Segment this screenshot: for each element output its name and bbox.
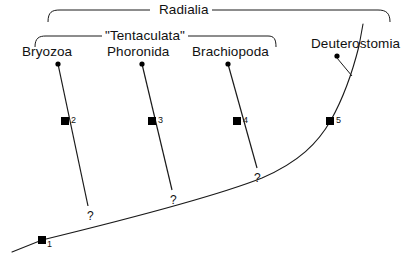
taxon-label-brachiopoda: Brachiopoda [192,45,269,59]
radialia-bracket [48,10,390,22]
clade-label-tentaculata: "Tentaculata" [102,29,188,43]
node-number-4: 4 [243,116,248,125]
node-number-2: 2 [71,116,76,125]
terminal-dot-brachiopoda [225,61,230,66]
question-mark-brachiopoda: ? [254,172,261,184]
taxon-label-deuterostomia: Deuterostomia [311,37,400,51]
cladogram-figure: Radialia "Tentaculata" Bryozoa Phoronida… [0,0,406,264]
branch-deuterostomia [326,47,359,125]
node-number-3: 3 [158,116,163,125]
node-square-1 [38,236,46,244]
taxon-label-phoronida: Phoronida [107,45,169,59]
node-square-4 [233,117,241,125]
node-square-3 [148,117,156,125]
terminal-dot-phoronida [139,61,144,66]
node-number-5: 5 [336,116,341,125]
node-number-1: 1 [47,240,52,249]
terminal-dot-deuterostomia [334,53,339,58]
terminal-dot-bryozoa [55,61,60,66]
node-square-5 [326,117,334,125]
clade-label-radialia: Radialia [156,3,212,17]
branch-phoronida [139,61,172,190]
question-mark-bryozoa: ? [87,210,94,222]
question-mark-phoronida: ? [170,194,177,206]
node-square-2 [61,117,69,125]
taxon-label-bryozoa: Bryozoa [22,45,72,59]
branch-bryozoa [55,61,88,206]
branch-brachiopoda [225,61,257,168]
